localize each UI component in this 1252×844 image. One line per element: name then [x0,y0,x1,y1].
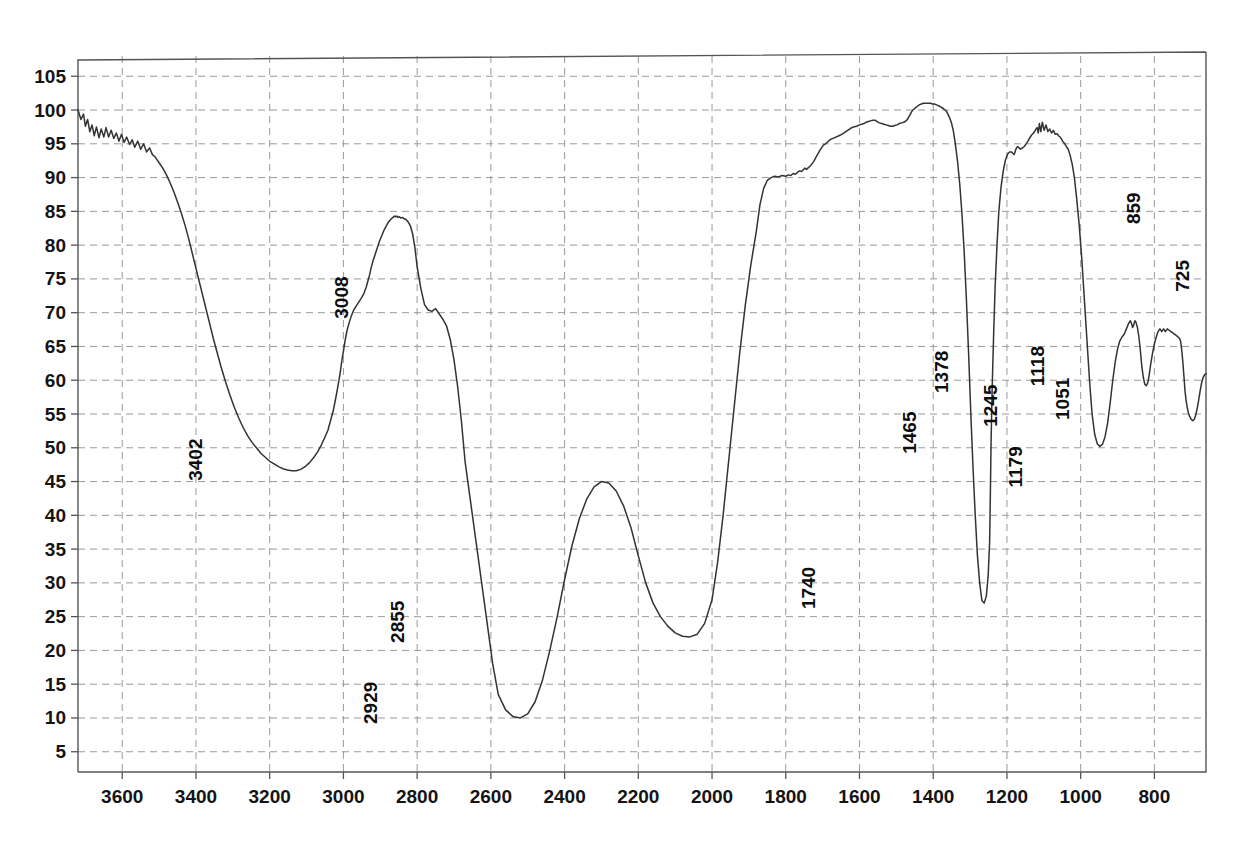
y-tick-label: 15 [45,674,67,695]
peak-annotation-725: 725 [1172,260,1193,292]
x-tick-label: 3400 [175,786,217,807]
peak-annotation-1245: 1245 [980,384,1001,427]
x-tick-label: 1000 [1060,786,1102,807]
y-tick-label: 10 [45,707,66,728]
x-tick-label: 1200 [986,786,1028,807]
ir-spectrum-page: 5101520253035404550556065707580859095100… [0,0,1252,844]
y-tick-label: 85 [45,201,67,222]
x-tick-label: 3600 [101,786,143,807]
x-tick-label: 2800 [396,786,438,807]
y-tick-label: 60 [45,370,66,391]
y-tick-label: 105 [34,66,66,87]
peak-annotation-2929: 2929 [360,682,381,724]
x-tick-label: 2200 [617,786,659,807]
y-tick-label: 100 [34,100,66,121]
y-tick-label: 75 [45,268,67,289]
peak-annotation-3402: 3402 [185,439,206,481]
y-tick-label: 35 [45,539,67,560]
peak-annotation-1378: 1378 [931,351,952,393]
x-tick-label: 2400 [543,786,585,807]
peak-annotation-1465: 1465 [899,411,920,454]
x-axis-tick-labels: 3600340032003000280026002400220020001800… [101,786,1170,807]
y-tick-label: 65 [45,336,67,357]
peak-annotation-1740: 1740 [798,567,819,609]
spectrum-trace [78,103,1206,718]
y-tick-label: 70 [45,302,66,323]
x-tick-label: 800 [1139,786,1171,807]
x-tick-label: 3200 [249,786,291,807]
y-tick-label: 25 [45,606,67,627]
peak-annotations: 3402300829292855174014651378124511791118… [185,192,1193,724]
peak-annotation-1179: 1179 [1005,446,1026,487]
y-tick-label: 90 [45,167,66,188]
grid-lines [78,56,1206,772]
x-tick-label: 2000 [691,786,733,807]
y-tick-label: 40 [45,505,66,526]
spectrum-trace-group [78,103,1206,718]
plot-frame [78,52,1206,772]
y-axis-tick-labels: 5101520253035404550556065707580859095100… [34,66,66,762]
x-tick-label: 1600 [838,786,880,807]
y-tick-label: 50 [45,437,66,458]
peak-annotation-2855: 2855 [387,600,408,643]
x-tick-label: 1400 [912,786,954,807]
x-tick-label: 1800 [765,786,807,807]
y-tick-label: 30 [45,572,66,593]
peak-annotation-1051: 1051 [1052,377,1073,420]
y-tick-label: 45 [45,471,67,492]
peak-annotation-3008: 3008 [331,276,352,318]
y-tick-label: 80 [45,235,66,256]
y-tick-label: 20 [45,640,66,661]
ir-spectrum-chart: 5101520253035404550556065707580859095100… [0,0,1252,844]
peak-annotation-859: 859 [1123,192,1144,224]
plot-frame-border [78,52,1206,772]
y-tick-label: 55 [45,404,67,425]
y-tick-label: 5 [55,741,66,762]
peak-annotation-1118: 1118 [1027,346,1048,386]
y-tick-label: 95 [45,133,67,154]
x-tick-label: 2600 [470,786,512,807]
x-tick-label: 3000 [322,786,364,807]
